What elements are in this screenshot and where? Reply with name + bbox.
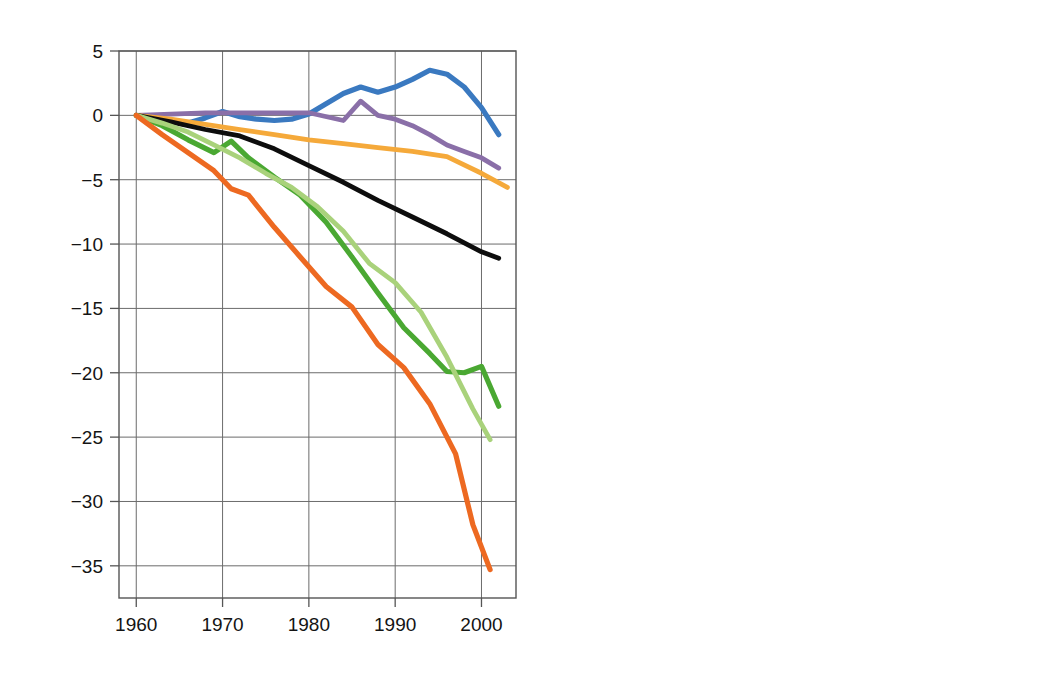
- y-tick-label: −20: [71, 363, 103, 384]
- x-tick-label: 1960: [115, 614, 157, 635]
- chart-svg: 50−5−10−15−20−25−30−35196019701980199020…: [0, 0, 1051, 687]
- x-tick-label: 1980: [288, 614, 330, 635]
- y-tick-label: −10: [71, 234, 103, 255]
- y-tick-label: −15: [71, 298, 103, 319]
- y-tick-label: 5: [92, 41, 103, 62]
- y-tick-label: −25: [71, 427, 103, 448]
- y-tick-label: −35: [71, 556, 103, 577]
- figure-container: 50−5−10−15−20−25−30−35196019701980199020…: [0, 0, 1051, 687]
- series-group: [136, 70, 507, 569]
- series-line-montanhas-elevadas-da-sia: [136, 115, 498, 258]
- panel-A: 50−5−10−15−20−25−30−35196019701980199020…: [71, 41, 516, 635]
- y-tick-label: −30: [71, 491, 103, 512]
- series-line-alasca-montanhas-costeiras: [136, 115, 490, 439]
- y-tick-label: 0: [92, 105, 103, 126]
- x-tick-label: 1990: [374, 614, 416, 635]
- series-line-nw-eua-sw-can: [136, 115, 498, 406]
- x-tick-label: 1970: [201, 614, 243, 635]
- x-tick-label: 2000: [460, 614, 502, 635]
- y-tick-label: −5: [81, 170, 103, 191]
